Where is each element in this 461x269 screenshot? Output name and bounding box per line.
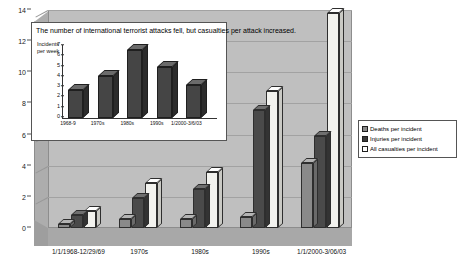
inset-y-tick-label: 5 [57, 63, 60, 69]
inset-bar-side [201, 80, 207, 118]
inset-y-tick-label: 6 [57, 53, 60, 59]
legend-swatch [362, 136, 368, 142]
bar-face [58, 224, 70, 228]
legend-item: Deaths per incident [362, 124, 453, 134]
x-tick-label: 1970s [130, 248, 148, 256]
y-tick-mark [27, 9, 31, 10]
bar-side [313, 158, 318, 228]
inset-x-tick-label: 1/2000-3/6/03 [171, 120, 202, 126]
inset-bar-face [186, 85, 201, 118]
inset-bar: 1968-9 [68, 90, 83, 118]
bar-side [278, 86, 283, 228]
inset-tick-mark [61, 96, 64, 97]
inset-y-tick-label: 1 [57, 104, 60, 110]
inset-x-tick-label: 1990s [150, 120, 164, 126]
bar-face [119, 219, 131, 228]
x-tick-label: 1990s [252, 248, 270, 256]
bar [58, 224, 70, 228]
inset-x-tick-label: 1968-9 [60, 120, 76, 126]
inset-tick-mark [61, 116, 64, 117]
y-tick-label: 14 [18, 7, 26, 14]
inset-bar-face [98, 76, 113, 118]
legend-item: All casualties per incident [362, 144, 453, 154]
inset-tick-mark [61, 106, 64, 107]
inset-y-tick-label: 4 [57, 73, 60, 79]
y-tick-label: 2 [22, 193, 26, 200]
legend-swatch [362, 126, 368, 132]
y-tick-label: 0 [22, 225, 26, 232]
inset-bar-side [172, 61, 178, 118]
bar-side [205, 185, 210, 228]
inset-bar-face [68, 90, 83, 118]
inset-bar-face [127, 50, 142, 118]
bar [119, 219, 131, 228]
inset-tick-mark [61, 44, 64, 45]
inset-bar-face [157, 67, 172, 118]
inset-bar-side [142, 45, 148, 118]
legend-label: Injuries per incident [370, 136, 422, 143]
bar-side [96, 206, 101, 228]
bar-face [253, 110, 265, 228]
inset-bar: 1980s [127, 50, 142, 118]
legend-label: All casualties per incident [370, 146, 438, 153]
inset-bar: 1970s [98, 76, 113, 118]
inset-plot-area: 01234567 1968-91970s1980s1990s1/2000-3/6… [62, 45, 217, 119]
inset-y-tick-label: 2 [57, 94, 60, 100]
inset-tick-mark [61, 65, 64, 66]
y-tick-mark [27, 195, 31, 196]
bar-side [157, 178, 162, 228]
bar [301, 163, 313, 228]
bar-side [218, 167, 223, 228]
inset-tick-mark [61, 75, 64, 76]
inset-y-axis-line [62, 45, 63, 119]
inset-x-tick-label: 1970s [91, 120, 105, 126]
bar-side [265, 105, 270, 228]
inset-bar: 1990s [157, 67, 172, 118]
inset-y-tick-label: 0 [57, 114, 60, 120]
inset-tick-mark [61, 55, 64, 56]
bar [253, 110, 265, 228]
y-tick-label: 4 [22, 162, 26, 169]
x-axis-labels: 1/1/1968-12/29/691970s1980s1990s1/1/2000… [34, 248, 352, 262]
inset-bar-side [113, 70, 119, 118]
bar [180, 219, 192, 228]
inset-y-tick-label: 3 [57, 83, 60, 89]
y-tick-label: 12 [18, 38, 26, 45]
legend-item: Injuries per incident [362, 134, 453, 144]
x-tick-label: 1/1/1968-12/29/69 [52, 248, 105, 256]
bar-face [180, 219, 192, 228]
legend-label: Deaths per incident [370, 126, 422, 133]
chart-title: The number of international terrorist at… [36, 26, 224, 35]
y-tick-mark [27, 164, 31, 165]
bar-side [339, 9, 344, 228]
inset-tick-mark [61, 85, 64, 86]
bar [240, 217, 252, 228]
x-tick-label: 1980s [191, 248, 209, 256]
legend: Deaths per incidentInjuries per incident… [358, 120, 457, 158]
bar-group [291, 10, 352, 228]
x-tick-label: 1/1/2000-3/06/03 [297, 248, 346, 256]
inset-chart: The number of international terrorist at… [31, 22, 227, 141]
legend-swatch [362, 146, 368, 152]
inset-bar: 1/2000-3/6/03 [186, 85, 201, 118]
bar-side [144, 194, 149, 228]
chart-figure: 02468101214 1/1/1968-12/29/691970s1980s1… [0, 0, 461, 269]
inset-y-tick-label: 7 [57, 42, 60, 48]
inset-x-axis-line [62, 118, 217, 119]
bar-side [326, 132, 331, 228]
y-tick-label: 6 [22, 131, 26, 138]
y-tick-mark [27, 227, 31, 228]
inset-bar-side [83, 85, 89, 118]
bar-face [240, 217, 252, 228]
y-tick-label: 8 [22, 100, 26, 107]
y-tick-label: 10 [18, 69, 26, 76]
bar-face [301, 163, 313, 228]
bar-group [230, 10, 291, 228]
plot-floor-front [48, 227, 352, 246]
y-axis: 02468101214 [0, 0, 34, 269]
inset-x-tick-label: 1980s [120, 120, 134, 126]
